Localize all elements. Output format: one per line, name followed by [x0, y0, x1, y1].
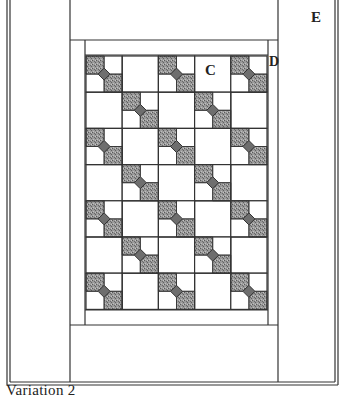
pieced-block [86, 128, 122, 164]
plain-block [195, 128, 231, 164]
label-c: C [205, 62, 216, 78]
plain-block [86, 92, 122, 128]
label-d: D [269, 54, 279, 69]
pieced-block [231, 273, 267, 309]
plain-block [158, 92, 194, 128]
plain-block [231, 165, 267, 201]
pieced-block [195, 92, 231, 128]
plain-block [158, 237, 194, 273]
plain-block [86, 165, 122, 201]
plain-block [231, 92, 267, 128]
plain-block [122, 201, 158, 237]
pieced-block [158, 128, 194, 164]
pieced-block [158, 273, 194, 309]
pieced-block [231, 128, 267, 164]
plain-block [231, 237, 267, 273]
pieced-block [122, 237, 158, 273]
pieced-block [158, 201, 194, 237]
pieced-block [122, 92, 158, 128]
quilt-diagram: E C D Variation 2 [0, 0, 342, 400]
plain-block [122, 128, 158, 164]
plain-block [195, 273, 231, 309]
plain-block [86, 237, 122, 273]
pieced-block [231, 56, 267, 92]
pieced-block [231, 201, 267, 237]
plain-block [195, 201, 231, 237]
pieced-block [158, 56, 194, 92]
plain-block [122, 273, 158, 309]
pieced-block [86, 201, 122, 237]
block-grid [86, 56, 267, 309]
pieced-block [86, 273, 122, 309]
pieced-block [86, 56, 122, 92]
pieced-block [195, 165, 231, 201]
plain-block [158, 165, 194, 201]
pieced-block [122, 165, 158, 201]
plain-block [122, 56, 158, 92]
quilt-layout-drawing: E C D [0, 0, 342, 400]
figure-caption: Variation 2 [6, 382, 76, 399]
label-e: E [311, 9, 321, 25]
pieced-block [195, 237, 231, 273]
